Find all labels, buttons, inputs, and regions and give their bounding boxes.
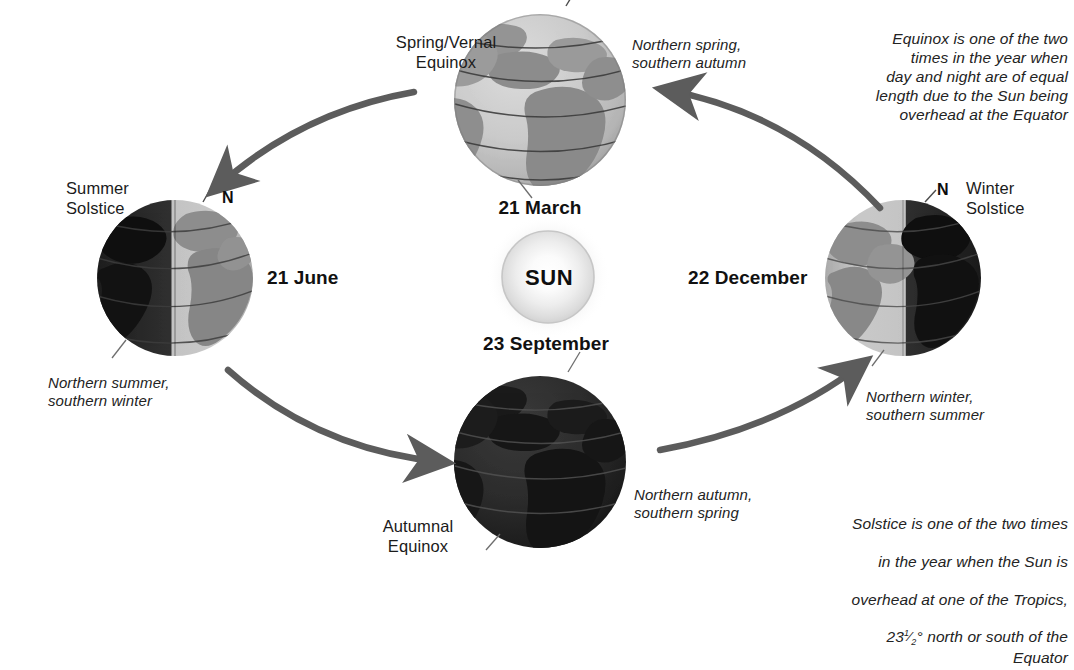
note-solstice-definition: Solstice is one of the two times in the …: [832, 496, 1068, 670]
label-date-23-september: 23 September: [466, 332, 626, 355]
solstice-line-4: 231⁄2° north or south of the Equator: [832, 628, 1068, 667]
label-date-21-june: 21 June: [267, 266, 387, 289]
fraction-numerator: 1: [904, 628, 909, 638]
label-winter-solstice: Winter Solstice: [966, 178, 1074, 218]
note-northern-autumn: Northern autumn, southern spring: [634, 486, 824, 523]
note-northern-winter: Northern winter, southern summer: [866, 388, 1056, 425]
label-spring-vernal-equinox: Spring/Vernal Equinox: [384, 32, 508, 72]
label-north-pole-left: N: [222, 188, 234, 208]
note-northern-summer: Northern summer, southern winter: [48, 374, 238, 411]
arrow-autumn-to-winter: [660, 364, 862, 450]
solstice-line-2: in the year when the Sun is: [832, 553, 1068, 572]
note-northern-spring: Northern spring, southern autumn: [632, 36, 802, 73]
fraction-one-half: 1⁄2: [904, 628, 917, 648]
label-date-21-march: 21 March: [476, 196, 604, 219]
note-equinox-definition: Equinox is one of the two times in the y…: [840, 30, 1068, 125]
globe-spring-equinox: [417, 0, 633, 198]
fraction-denominator: 2: [911, 637, 916, 647]
arrow-spring-to-summer: [216, 92, 414, 188]
solstice-line-3: overhead at one of the Tropics,: [832, 591, 1068, 610]
solstice-line-1: Solstice is one of the two times: [832, 515, 1068, 534]
label-date-22-december: 22 December: [688, 266, 828, 289]
globe-winter-solstice: [823, 190, 983, 366]
label-north-pole-right: N: [937, 180, 949, 200]
solstice-line-4-rest: ° north or south of the Equator: [916, 628, 1068, 666]
arrow-summer-to-autumn: [228, 370, 442, 462]
label-autumnal-equinox: Autumnal Equinox: [352, 516, 484, 556]
label-summer-solstice: Summer Solstice: [66, 178, 186, 218]
sun-label: SUN: [513, 265, 585, 291]
solstice-degrees-value: 23: [887, 628, 904, 645]
